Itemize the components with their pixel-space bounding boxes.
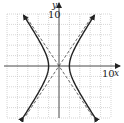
x-tick-label: 10	[102, 68, 115, 79]
axes	[4, 3, 120, 118]
x-axis-label: x	[114, 68, 119, 78]
hyperbola-graph: y 10 10 x	[0, 0, 124, 123]
y-tick-label: 10	[48, 9, 61, 20]
